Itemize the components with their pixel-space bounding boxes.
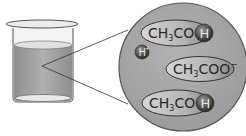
beaker-liquid [14, 45, 72, 101]
svg-text:H: H [201, 96, 211, 111]
beaker-rim [6, 20, 78, 28]
molecule-ch3cooh-bottom: CH3COO H [142, 90, 214, 116]
beaker [6, 20, 78, 102]
svg-text:CH3COO−: CH3COO− [173, 59, 238, 79]
molecule-ch3cooh-top: CH3COO H [141, 20, 213, 46]
acetic-acid-diagram: CH3COO H H + CH3COO− CH3COO H [0, 0, 246, 136]
svg-text:+: + [145, 44, 150, 51]
svg-text:H: H [200, 26, 210, 41]
